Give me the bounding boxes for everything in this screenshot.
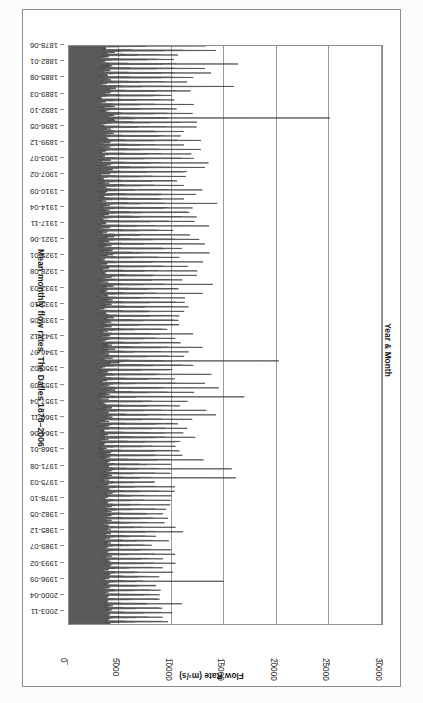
scanned-chart-page: Mean monthly flow rates, The Dalles 1878…: [0, 0, 423, 703]
category-tick-mark: [60, 44, 64, 45]
chart: Mean monthly flow rates, The Dalles 1878…: [22, 9, 401, 687]
category-tick-label: 1982-05: [30, 510, 58, 519]
category-tick-mark: [60, 303, 64, 304]
category-tick-mark: [60, 432, 64, 433]
category-tick-label: 1975-03: [30, 477, 58, 486]
category-tick-mark: [60, 351, 64, 352]
category-tick-label: 1917-11: [31, 218, 58, 227]
category-tick-mark: [60, 448, 64, 449]
category-tick-mark: [60, 270, 64, 271]
value-axis-ticks: 300002500020000150001000050000: [22, 625, 401, 665]
category-tick-label: 1878-06: [30, 41, 58, 50]
category-tick-mark: [60, 125, 64, 126]
category-tick-mark: [60, 287, 64, 288]
category-tick-mark: [60, 222, 64, 223]
category-tick-label: 1946-07: [30, 348, 58, 357]
category-tick-label: 1971-08: [30, 461, 58, 470]
category-tick-mark: [60, 562, 64, 563]
category-tick-label: 1903-07: [30, 154, 58, 163]
category-tick-mark: [60, 206, 64, 207]
category-tick-mark: [60, 497, 64, 498]
value-tick-label: 30000: [374, 658, 383, 681]
category-tick-label: 1928-08: [30, 267, 58, 276]
category-tick-label: 1907-02: [30, 170, 58, 179]
category-tick-mark: [60, 238, 64, 239]
category-tick-label: 1964-06: [30, 429, 58, 438]
category-tick-mark: [60, 173, 64, 174]
plot-area: [68, 45, 383, 625]
category-tick-label: 1899-12: [30, 138, 58, 147]
value-tick-label: 5000: [112, 658, 121, 676]
value-tick-label: 15000: [217, 658, 226, 681]
category-tick-mark: [60, 254, 64, 255]
category-axis-ticks: 1878-061882-011885-081889-031892-101896-…: [24, 45, 64, 625]
category-tick-mark: [60, 594, 64, 595]
category-tick-mark: [60, 141, 64, 142]
category-tick-label: 1957-04: [30, 396, 58, 405]
category-tick-mark: [60, 335, 64, 336]
category-tick-mark: [60, 190, 64, 191]
category-tick-label: 1942-12: [30, 332, 58, 341]
category-tick-mark: [60, 76, 64, 77]
category-tick-label: 2003-11: [31, 607, 58, 616]
category-tick-label: 1935-10: [30, 299, 58, 308]
category-tick-mark: [60, 319, 64, 320]
category-tick-label: 1985-12: [30, 526, 58, 535]
category-tick-label: 1960-11: [31, 413, 58, 422]
category-tick-label: 1953-09: [30, 380, 58, 389]
value-tick-label: 0: [59, 658, 68, 663]
category-tick-label: 1925-01: [30, 251, 58, 260]
category-tick-label: 1968-01: [30, 445, 58, 454]
category-tick-label: 2000-04: [30, 590, 58, 599]
category-tick-mark: [60, 513, 64, 514]
flow-rate-outline: [95, 46, 330, 624]
value-axis-title: Flow Rate (m³/s): [22, 665, 401, 687]
category-tick-label: 1889-03: [30, 89, 58, 98]
category-tick-label: 1892-10: [30, 105, 58, 114]
category-tick-mark: [60, 384, 64, 385]
category-tick-mark: [60, 578, 64, 579]
value-tick-label: 20000: [269, 658, 278, 681]
category-tick-mark: [60, 157, 64, 158]
category-tick-mark: [60, 109, 64, 110]
category-tick-label: 1896-05: [30, 121, 58, 130]
category-tick-label: 1996-09: [30, 574, 58, 583]
category-tick-mark: [60, 545, 64, 546]
category-tick-label: 1978-10: [30, 493, 58, 502]
category-tick-mark: [60, 610, 64, 611]
category-tick-label: 1921-06: [30, 235, 58, 244]
category-tick-label: 1910-09: [30, 186, 58, 195]
category-tick-mark: [60, 93, 64, 94]
category-axis-title-text: Year & Month: [383, 323, 393, 377]
category-tick-mark: [60, 400, 64, 401]
category-tick-mark: [60, 416, 64, 417]
category-tick-mark: [60, 60, 64, 61]
flow-rate-series: [69, 46, 382, 624]
category-tick-label: 1885-08: [30, 73, 58, 82]
value-axis-title-text: Flow Rate (m³/s): [179, 671, 244, 681]
category-tick-label: 1932-03: [30, 283, 58, 292]
category-tick-mark: [60, 481, 64, 482]
category-tick-label: 1939-05: [30, 315, 58, 324]
value-tick-label: 25000: [322, 658, 331, 681]
category-tick-mark: [60, 529, 64, 530]
value-tick-label: 10000: [164, 658, 173, 681]
category-tick-label: 1989-07: [30, 542, 58, 551]
category-tick-mark: [60, 367, 64, 368]
category-tick-mark: [60, 465, 64, 466]
category-tick-label: 1882-01: [30, 57, 58, 66]
category-tick-label: 1914-04: [30, 202, 58, 211]
rotated-chart-container: Mean monthly flow rates, The Dalles 1878…: [22, 9, 401, 687]
category-tick-label: 1950-02: [30, 364, 58, 373]
category-tick-label: 1993-02: [30, 558, 58, 567]
